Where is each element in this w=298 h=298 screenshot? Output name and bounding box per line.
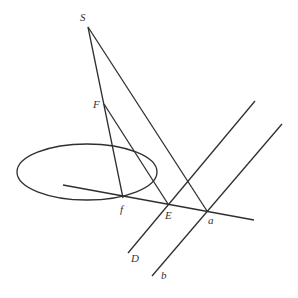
label-f: f [120, 203, 125, 215]
label-D: D [130, 252, 139, 264]
line-S-f [88, 27, 123, 198]
label-a: a [208, 214, 214, 226]
label-F: F [92, 98, 100, 110]
ellipse [17, 144, 157, 200]
label-b: b [161, 269, 167, 281]
label-E: E [164, 209, 172, 221]
diagram-svg: S F f E a D b [0, 0, 298, 298]
perspective-diagram: S F f E a D b [0, 0, 298, 298]
line-S-a [88, 27, 207, 211]
label-S: S [80, 11, 86, 23]
